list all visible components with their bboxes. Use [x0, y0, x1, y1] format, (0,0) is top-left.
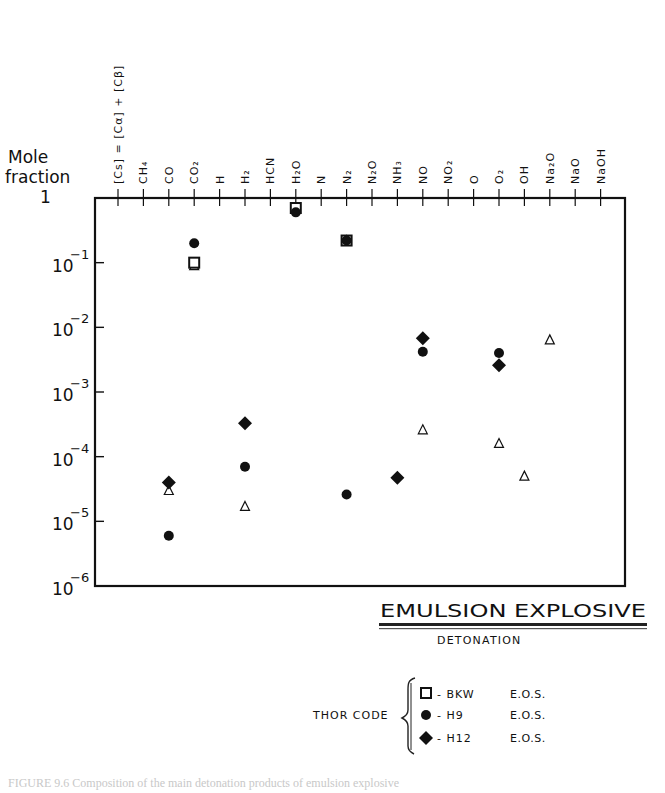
x-category-labels: [Cs] = [Cα] + [Cβ]CH₄COCO₂HH₂HCNH₂ONN₂N₂… — [112, 65, 608, 184]
point-diamond-icon — [238, 416, 252, 430]
legend-eos-h12: E.O.S. — [510, 732, 546, 745]
y-tick-label: 10−6 — [52, 570, 89, 599]
y-tick-label: 10−5 — [52, 505, 89, 534]
point-diamond-icon — [416, 331, 430, 345]
point-diamond-icon — [162, 475, 176, 489]
legend-group-label: THOR CODE — [312, 709, 389, 722]
svg-text:−1: −1 — [70, 247, 89, 262]
x-category-label: OH — [518, 165, 531, 184]
x-category-label: CH₄ — [137, 161, 150, 184]
point-circle-icon — [342, 489, 352, 499]
y-axis-label-line1: Mole — [8, 147, 48, 167]
legend: THOR CODE - BKW E.O.S. - H9 E.O.S. - H12… — [312, 678, 546, 754]
svg-text:−2: −2 — [70, 311, 89, 326]
svg-text:1: 1 — [40, 187, 51, 207]
point-circle-icon — [240, 462, 250, 472]
x-category-label: NaO — [569, 157, 582, 184]
y-tick-label: 10−2 — [52, 311, 89, 340]
point-triangle-icon — [520, 471, 529, 480]
title-underline — [379, 623, 647, 626]
y-tick-label: 1 — [40, 187, 51, 207]
y-tick-labels: 110−110−210−310−410−510−6 — [40, 187, 89, 599]
x-category-label: Na₂O — [544, 152, 557, 184]
x-category-label: NO₂ — [442, 160, 455, 184]
y-axis-label-line2: fraction — [5, 167, 70, 187]
x-category-label: O₂ — [493, 169, 506, 184]
legend-label-h12: - H12 — [437, 732, 472, 745]
legend-marker-diamond-icon — [419, 731, 433, 745]
legend-eos-bkw: E.O.S. — [510, 688, 546, 701]
x-category-label: N — [315, 175, 328, 184]
y-tick-label: 10−3 — [52, 376, 89, 405]
svg-text:−5: −5 — [70, 505, 89, 520]
x-category-label: CO₂ — [188, 160, 201, 184]
figure-caption: FIGURE 9.6 Composition of the main deton… — [8, 776, 658, 791]
x-category-label: NH₃ — [391, 160, 404, 184]
x-category-label: O — [468, 174, 481, 184]
plot-frame — [95, 198, 625, 586]
x-category-label: NaOH — [595, 148, 608, 184]
data-points — [162, 203, 555, 541]
x-category-label: CO — [163, 166, 176, 184]
x-category-label: HCN — [264, 157, 277, 184]
x-category-label: H₂O — [290, 160, 303, 184]
point-circle-icon — [164, 531, 174, 541]
x-category-label: H — [214, 175, 227, 184]
point-triangle-icon — [418, 425, 427, 434]
scatter-chart: Mole fraction 110−110−210−310−410−510−6 … — [0, 0, 665, 793]
svg-text:−6: −6 — [70, 570, 89, 585]
svg-text:−4: −4 — [70, 441, 89, 456]
x-category-label: NO — [417, 165, 430, 184]
y-tick-label: 10−4 — [52, 441, 89, 470]
legend-marker-circle-icon — [421, 710, 431, 720]
point-triangle-icon — [495, 438, 504, 447]
y-tick-label: 10−1 — [52, 247, 89, 276]
point-diamond-icon — [492, 358, 506, 372]
point-circle-icon — [342, 236, 352, 246]
point-circle-icon — [189, 238, 199, 248]
x-category-label: H₂ — [239, 169, 252, 184]
chart-subtitle: DETONATION — [437, 634, 522, 647]
point-circle-icon — [494, 348, 504, 358]
legend-label-bkw: - BKW — [437, 688, 475, 701]
point-triangle-icon — [241, 501, 250, 510]
x-category-label: N₂ — [341, 169, 354, 184]
chart-title: EMULSION EXPLOSIVE — [380, 601, 646, 621]
x-category-label: [Cs] = [Cα] + [Cβ] — [112, 65, 125, 184]
point-circle-icon — [418, 347, 428, 357]
svg-text:−3: −3 — [70, 376, 89, 391]
legend-label-h9: - H9 — [437, 709, 464, 722]
point-triangle-icon — [545, 335, 554, 344]
point-circle-icon — [291, 207, 301, 217]
legend-brace — [402, 678, 415, 754]
point-diamond-icon — [390, 471, 404, 485]
title-underline-thin — [379, 628, 647, 629]
legend-marker-square-icon — [421, 688, 431, 698]
x-category-label: N₂O — [366, 160, 379, 184]
point-square-icon — [189, 258, 199, 268]
legend-eos-h9: E.O.S. — [510, 709, 546, 722]
